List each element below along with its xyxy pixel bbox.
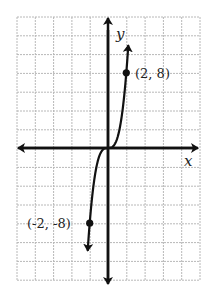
point-label-lower: (-2, -8) bbox=[27, 216, 71, 231]
data-point bbox=[123, 69, 130, 76]
point-label-upper: (2, 8) bbox=[135, 66, 170, 81]
data-point bbox=[86, 220, 93, 227]
cubic-function-graph: x y (2, 8) (-2, -8) bbox=[0, 0, 204, 301]
x-axis-label: x bbox=[184, 152, 193, 170]
y-axis-label: y bbox=[115, 25, 125, 43]
axes bbox=[18, 18, 198, 284]
